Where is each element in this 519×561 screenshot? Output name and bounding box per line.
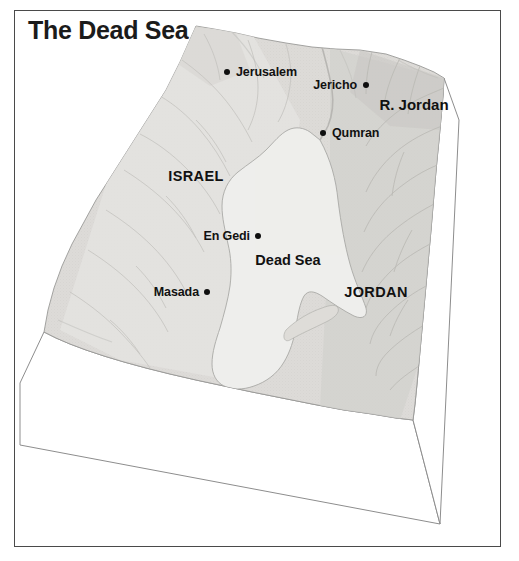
city-label-jericho: Jericho [313, 79, 357, 92]
region-label-jordan: JORDAN [344, 285, 408, 300]
city-dot-en-gedi [255, 233, 261, 239]
city-label-masada: Masada [154, 286, 199, 299]
map-figure: The Dead Sea Jerusalem Jericho Qumran En… [0, 0, 519, 561]
city-dot-qumran [320, 130, 326, 136]
map-canvas [0, 0, 519, 561]
city-label-en-gedi: En Gedi [203, 230, 250, 243]
city-dot-jerusalem [224, 69, 230, 75]
city-label-jerusalem: Jerusalem [236, 66, 297, 79]
river-label-r-jordan: R. Jordan [379, 97, 448, 112]
city-dot-masada [204, 289, 210, 295]
page-title: The Dead Sea [28, 16, 188, 45]
city-dot-jericho [363, 82, 369, 88]
water-label-dead-sea: Dead Sea [255, 253, 320, 268]
region-label-israel: ISRAEL [168, 169, 224, 184]
city-label-qumran: Qumran [332, 127, 379, 140]
